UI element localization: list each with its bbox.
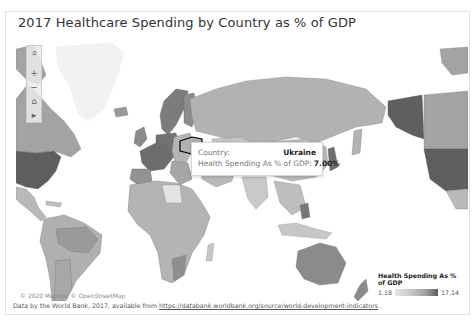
pan-icon[interactable]: ▸ [27,108,41,122]
legend-max: 17.14 [441,289,459,296]
tooltip-country-label: Country: [198,147,230,158]
tooltip-country-value: Ukraine [283,147,316,158]
legend-title: Health Spending As % of GDP [378,272,462,286]
legend-min: 1.18 [378,289,392,296]
footer-link[interactable]: https://databank.worldbank.org/source/wo… [159,302,378,309]
choropleth-map[interactable]: ⌕ + − ⌂ ▸ Country: Ukraine Health Spendi… [16,39,468,301]
color-legend: Health Spending As % of GDP 1.18 17.14 [378,272,462,296]
tooltip-metric-label: Health Spending As % of GDP: [198,158,312,169]
home-icon[interactable]: ⌂ [27,94,41,108]
data-source-caption: Data by the World Bank, 2017, available … [13,302,378,309]
zoom-in-icon[interactable]: + [27,66,41,80]
country-tooltip: Country: Ukraine Health Spending As % of… [191,142,323,176]
search-icon[interactable]: ⌕ [27,46,41,60]
map-toolbar: ⌕ + − ⌂ ▸ [26,45,42,123]
legend-gradient [395,289,438,296]
dashboard-frame: 2017 Healthcare Spending by Country as %… [5,11,470,315]
page-title: 2017 Healthcare Spending by Country as %… [18,15,356,30]
footer-text: Data by the World Bank, 2017, available … [13,302,159,309]
zoom-out-icon[interactable]: − [27,80,41,94]
tooltip-metric-value: 7.00% [314,158,340,169]
map-attribution[interactable]: © 2020 Mapbox © OpenStreetMap [20,292,125,299]
